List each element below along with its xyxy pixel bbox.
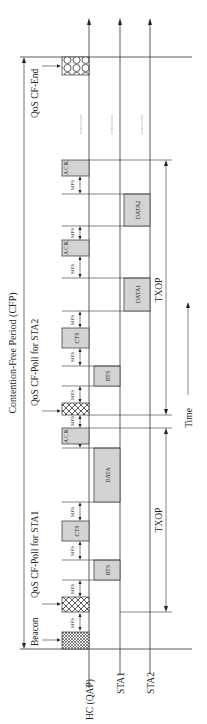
poll-sta2-frame bbox=[62, 403, 89, 415]
svg-text:SIFS: SIFS bbox=[70, 584, 75, 594]
beacon-frame bbox=[62, 632, 89, 649]
svg-text:SIFS: SIFS bbox=[70, 180, 75, 190]
svg-text:DATA2: DATA2 bbox=[135, 201, 141, 220]
svg-text:SIFS: SIFS bbox=[70, 416, 75, 426]
svg-text:A C K: A C K bbox=[63, 241, 69, 255]
svg-text:DATA1: DATA1 bbox=[135, 285, 141, 304]
station-label-sta1: STA1 bbox=[116, 672, 126, 694]
txop-label-2: TXOP bbox=[154, 278, 164, 303]
svg-text:RTS: RTS bbox=[105, 565, 111, 576]
svg-text:SIFS: SIFS bbox=[70, 507, 75, 517]
sifs-marker: SIFS bbox=[70, 386, 82, 403]
sifs-marker: SIFS bbox=[70, 311, 82, 328]
sifs-marker: SIFS bbox=[70, 256, 82, 278]
sifs-marker: SIFS bbox=[70, 348, 82, 366]
svg-text:A C K: A C K bbox=[63, 161, 69, 175]
poll-sta1-label: QoS CF-Poll for STA1 bbox=[30, 511, 40, 598]
station-label-hc: HC (QAP) bbox=[85, 679, 96, 720]
cfp-title: Contention-Free Period (CFP) bbox=[7, 292, 19, 413]
svg-text:SIFS: SIFS bbox=[70, 546, 75, 556]
station-timelines bbox=[87, 18, 152, 688]
time-label: Time bbox=[184, 408, 194, 428]
sifs-marker: SIFS bbox=[70, 176, 82, 194]
sifs-marker: SIFS bbox=[70, 502, 82, 521]
station-label-sta2: STA2 bbox=[146, 672, 156, 694]
sifs-marker: SIFS bbox=[70, 415, 82, 428]
svg-text:RTS: RTS bbox=[105, 371, 111, 382]
txop-label-1: TXOP bbox=[154, 508, 164, 533]
svg-text:A C K: A C K bbox=[63, 429, 69, 443]
sifs-marker: SIFS bbox=[70, 226, 82, 240]
svg-text:CTS: CTS bbox=[74, 332, 80, 343]
poll-sta1-frame bbox=[62, 597, 89, 612]
svg-text:SIFS: SIFS bbox=[70, 352, 75, 362]
cfp-timing-diagram: Contention-Free Period (CFP) HC (QAP) ST… bbox=[0, 0, 207, 724]
sifs-marker: SIFS bbox=[70, 613, 82, 631]
svg-text:SIFS: SIFS bbox=[70, 390, 75, 400]
svg-text:SIFS: SIFS bbox=[70, 264, 75, 274]
svg-text:SIFS: SIFS bbox=[70, 618, 75, 628]
beacon-label: Beacon bbox=[30, 617, 40, 646]
cf-end-label: QoS CF-End bbox=[30, 68, 40, 118]
svg-text:SIFS: SIFS bbox=[70, 315, 75, 325]
sifs-marker: SIFS bbox=[70, 580, 82, 597]
sifs-marker: SIFS bbox=[70, 541, 82, 560]
cf-end-frame bbox=[62, 57, 89, 75]
svg-text:CTS: CTS bbox=[74, 525, 80, 536]
svg-text:DATA: DATA bbox=[105, 467, 111, 483]
poll-sta2-label: QoS CF-Poll for STA2 bbox=[30, 319, 40, 406]
svg-text:SIFS: SIFS bbox=[70, 228, 75, 238]
